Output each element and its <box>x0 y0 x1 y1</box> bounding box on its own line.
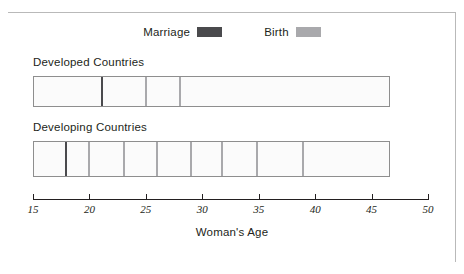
axis-tick-label: 40 <box>310 203 321 215</box>
axis-tick <box>315 194 316 200</box>
axis-tick <box>259 194 260 200</box>
axis-tick-label: 30 <box>197 203 208 215</box>
axis-tick-label: 50 <box>423 203 434 215</box>
page-rule-top <box>8 12 456 13</box>
event-marker-birth <box>302 142 304 176</box>
legend-swatch-marriage <box>197 27 222 37</box>
event-marker-marriage <box>65 142 67 176</box>
event-marker-marriage <box>101 77 103 106</box>
panel-title-developing: Developing Countries <box>33 121 147 133</box>
event-marker-birth <box>179 77 181 106</box>
axis-tick-label: 35 <box>253 203 264 215</box>
chart-legend: Marriage Birth <box>0 26 464 38</box>
chart-figure: Marriage Birth Developed Countries Devel… <box>0 0 464 274</box>
axis-title: Woman's Age <box>0 226 464 238</box>
axis-tick <box>428 194 429 200</box>
axis-line <box>33 199 428 200</box>
legend-swatch-birth <box>296 27 321 37</box>
axis-tick-label: 45 <box>366 203 377 215</box>
event-marker-birth <box>156 142 158 176</box>
legend-item-marriage: Marriage <box>143 26 222 38</box>
axis-tick <box>202 194 203 200</box>
page-rule-right <box>455 12 456 262</box>
axis-tick-label: 25 <box>140 203 151 215</box>
timeline-bar-developing <box>33 141 390 177</box>
legend-item-birth: Birth <box>264 26 321 38</box>
axis-tick <box>146 194 147 200</box>
axis-tick <box>89 194 90 200</box>
panel-title-developed: Developed Countries <box>33 56 144 68</box>
event-marker-birth <box>256 142 258 176</box>
axis-tick-label: 15 <box>28 203 39 215</box>
axis-tick-label: 20 <box>84 203 95 215</box>
event-marker-birth <box>145 77 147 106</box>
axis-tick <box>372 194 373 200</box>
event-marker-birth <box>190 142 192 176</box>
event-marker-birth <box>88 142 90 176</box>
event-marker-birth <box>123 142 125 176</box>
axis-tick <box>33 194 34 200</box>
timeline-bar-developed <box>33 76 390 107</box>
legend-label-birth: Birth <box>264 26 289 38</box>
legend-label-marriage: Marriage <box>143 26 190 38</box>
event-marker-birth <box>221 142 223 176</box>
